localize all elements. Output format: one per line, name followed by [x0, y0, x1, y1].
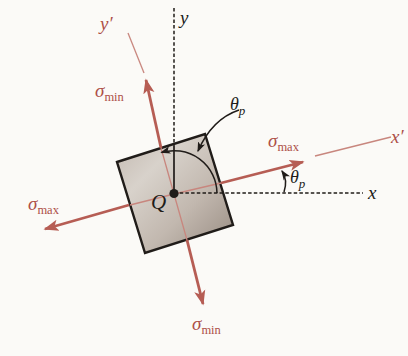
p-subscript: p [298, 176, 306, 191]
point-q-label: Q [151, 190, 166, 214]
max-subscript: max [37, 203, 59, 217]
min-subscript: min [104, 90, 124, 104]
sigma-min-arrow-up [146, 80, 161, 148]
x-prime-axis-label: x′ [390, 126, 404, 147]
sigma-min-arrow-down [187, 240, 203, 304]
max-subscript: max [277, 140, 299, 154]
min-subscript: min [201, 323, 221, 337]
sigma-max-label-right: σmax [268, 130, 300, 154]
sigma-min-label-top: σmin [95, 80, 125, 104]
sigma-min-label-bottom: σmin [192, 313, 222, 337]
y-prime-axis-label: y′ [98, 13, 113, 34]
theta-p-label-small: θp [290, 167, 306, 191]
theta-p-small-arc [282, 171, 286, 192]
theta-symbol: θ [230, 94, 239, 114]
principal-stress-figure: y x y′ x′ σmin σmin σmax σmax θp θp Q [0, 0, 408, 356]
x-axis-label: x [367, 182, 377, 203]
y-axis-label: y [178, 7, 189, 28]
p-subscript: p [238, 103, 246, 118]
principal-stress-diagram: y x y′ x′ σmin σmin σmax σmax θp θp Q [0, 0, 408, 356]
x-prime-axis-line [315, 137, 391, 156]
theta-p-label-main: θp [230, 94, 246, 118]
point-q-dot [169, 189, 178, 198]
sigma-max-label-left: σmax [28, 193, 60, 217]
theta-symbol: θ [290, 167, 299, 187]
y-prime-axis-line [128, 33, 144, 73]
